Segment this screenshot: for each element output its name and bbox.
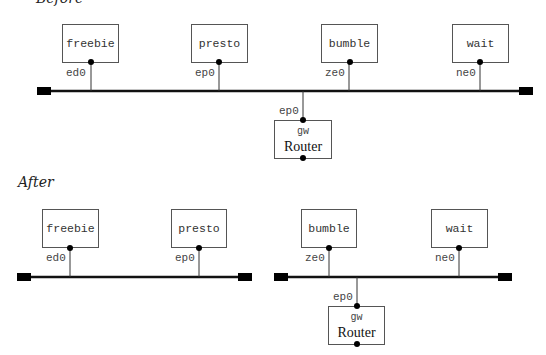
before-section: Before freebie ed0 presto ep0 bumble <box>35 0 533 161</box>
host-name: wait <box>446 222 474 235</box>
before-bus-terminator-left <box>37 87 51 95</box>
interface-label: ep0 <box>195 67 215 79</box>
host-name: bumble <box>308 222 350 235</box>
router-interface-dot-bottom <box>354 341 360 347</box>
after-section: After freebie ed0 presto ep0 bumble <box>16 174 512 347</box>
interface-dot <box>88 59 94 65</box>
before-host-bumble: bumble ze0 <box>322 25 378 92</box>
interface-label: ne0 <box>456 67 476 79</box>
after-right-bus-terminator-right <box>498 273 512 281</box>
before-label: Before <box>35 0 83 6</box>
host-name: bumble <box>329 37 371 50</box>
router-interface-dot-bottom <box>300 155 306 161</box>
interface-dot <box>67 245 73 251</box>
network-diagram: Before freebie ed0 presto ep0 bumble <box>0 0 546 355</box>
interface-dot <box>477 59 483 65</box>
host-name: presto <box>199 37 241 50</box>
interface-dot <box>456 245 462 251</box>
router-interface-dot-top <box>354 303 360 309</box>
interface-label: ed0 <box>66 67 86 79</box>
router-label: Router <box>337 325 375 340</box>
interface-label: ne0 <box>435 252 455 264</box>
router-interface-label: ep0 <box>333 291 353 303</box>
after-right-bus-terminator-left <box>274 273 288 281</box>
interface-dot <box>347 59 353 65</box>
router-interface-dot-top <box>300 117 306 123</box>
router-hostname: gw <box>297 126 309 137</box>
after-router-gw: ep0 gw Router <box>329 277 385 347</box>
router-label: Router <box>284 139 322 154</box>
interface-label: ed0 <box>46 252 66 264</box>
after-left-bus-terminator-right <box>238 273 252 281</box>
interface-label: ze0 <box>305 252 325 264</box>
interface-label: ze0 <box>325 67 345 79</box>
router-hostname: gw <box>350 312 362 323</box>
interface-dot <box>326 245 332 251</box>
after-host-wait: wait ne0 <box>432 210 488 278</box>
host-name: presto <box>178 222 220 235</box>
router-interface-label: ep0 <box>279 105 299 117</box>
before-router-gw: ep0 gw Router <box>275 91 332 161</box>
before-host-presto: presto ep0 <box>192 25 248 92</box>
host-name: freebie <box>66 37 114 50</box>
before-host-wait: wait ne0 <box>453 25 509 92</box>
before-host-freebie: freebie ed0 <box>63 25 119 92</box>
after-host-presto: presto ep0 <box>172 210 227 278</box>
after-host-bumble: bumble ze0 <box>302 210 357 278</box>
before-bus-terminator-right <box>519 87 533 95</box>
interface-dot <box>196 245 202 251</box>
host-name: freebie <box>46 222 94 235</box>
host-name: wait <box>467 37 495 50</box>
interface-dot <box>216 59 222 65</box>
after-label: After <box>16 174 55 190</box>
after-left-bus-terminator-left <box>17 273 31 281</box>
after-host-freebie: freebie ed0 <box>43 210 99 278</box>
interface-label: ep0 <box>175 252 195 264</box>
